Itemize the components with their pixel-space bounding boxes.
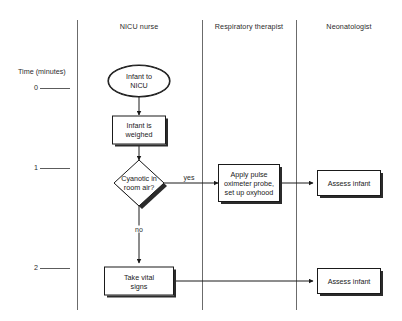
node-assess-infant-2[interactable]: Assess infant (317, 268, 381, 294)
node-infant-to-nicu-line-2: NICU (130, 81, 148, 90)
lane-header-neonatologist: Neonatologist (326, 22, 371, 31)
time-axis-label: Time (minutes) (18, 67, 66, 76)
node-infant-is-weighed-line-2: weighed (126, 130, 153, 139)
node-apply-pulse-oximeter-line-3: set up oxyhood (225, 188, 274, 197)
edge-label-no: no (134, 226, 144, 233)
node-take-vital-signs-line-1: Take vital (124, 272, 154, 281)
time-tick-label-1: 1 (12, 163, 38, 172)
node-cyanotic-line-1: Cyanotic in (121, 174, 157, 183)
lane-header-respiratory-therapist: Respiratory therapist (215, 22, 283, 31)
time-tick-label-0: 0 (12, 83, 38, 92)
node-cyanotic-in-room-air[interactable]: Cyanotic in room air? (114, 160, 164, 206)
edge-label-yes: yes (183, 174, 196, 181)
node-take-vital-signs[interactable]: Take vital signs (104, 267, 174, 296)
node-infant-to-nicu-line-1: Infant to (126, 72, 152, 81)
node-infant-is-weighed-line-1: Infant is (126, 121, 151, 130)
flowchart-canvas: NICU nurse Respiratory therapist Neonato… (0, 0, 402, 321)
node-apply-pulse-oximeter[interactable]: Apply pulse oximeter probe, set up oxyho… (218, 164, 280, 202)
node-infant-to-nicu[interactable]: Infant to NICU (108, 65, 170, 97)
node-assess-infant-1[interactable]: Assess infant (317, 170, 381, 196)
time-axis-ticks (40, 89, 70, 269)
time-tick-label-2: 2 (12, 263, 38, 272)
lane-header-nicu-nurse: NICU nurse (120, 22, 159, 31)
node-assess-infant-2-label: Assess infant (326, 277, 373, 286)
node-apply-pulse-oximeter-line-2: oximeter probe, (224, 179, 274, 188)
node-cyanotic-line-2: room air? (124, 183, 154, 192)
node-apply-pulse-oximeter-line-1: Apply pulse (230, 170, 267, 179)
node-take-vital-signs-line-2: signs (131, 281, 148, 290)
node-infant-is-weighed[interactable]: Infant is weighed (112, 115, 166, 144)
node-assess-infant-1-label: Assess infant (326, 179, 373, 188)
